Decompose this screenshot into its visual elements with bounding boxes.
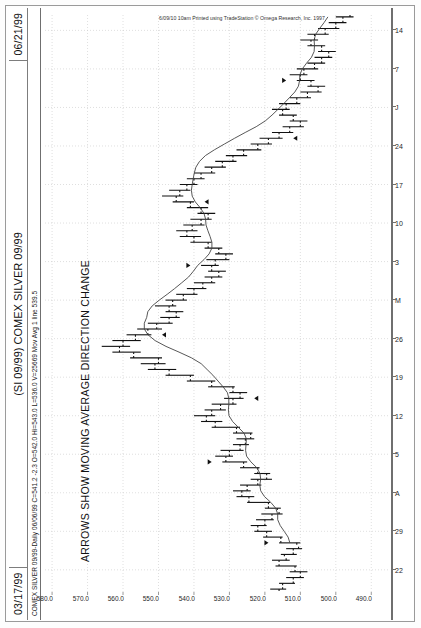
chart-page: 03/17/99 (SI 09/99) COMEX SILVER 09/99 0… [0,0,421,628]
page-title: (SI 09/99) COMEX SILVER 09/99 [12,61,24,566]
price-tick-label: 550.0 [143,595,159,602]
date-tick-mark [392,106,396,107]
price-tick-label: 540.0 [178,595,194,602]
date-tick-mark [392,530,396,531]
price-tick-label: 530.0 [214,595,230,602]
price-tick-label: 570.0 [72,595,88,602]
price-tick-label: 510.0 [285,595,301,602]
date-tick-mark [392,376,396,377]
price-tick-label: 500.0 [320,595,336,602]
date-tick-mark [392,29,396,30]
date-tick-mark [392,569,396,570]
quote-line: COMEX SILVER 09/99-Daily 06/06/99 C=541.… [28,8,40,620]
date-tick-mark [392,415,396,416]
date-tick-mark [392,261,396,262]
plot-area[interactable] [40,8,392,620]
date-tick-mark [392,299,396,300]
date-tick-mark [392,184,396,185]
date-tick-mark [392,68,396,69]
date-tick-mark [392,338,396,339]
price-tick-label: 490.0 [355,595,371,602]
price-tick-label: 560.0 [107,595,123,602]
copyright-notice: 6/09/10 10am Printed using TradeStation … [159,15,325,21]
quote-text: COMEX SILVER 09/99-Daily 06/06/99 C=541.… [30,291,37,620]
date-tick-mark [392,492,396,493]
price-tick-label: 580.0 [36,595,52,602]
ohlc-svg [41,8,392,620]
title-band: 03/17/99 (SI 09/99) COMEX SILVER 09/99 0… [9,8,28,620]
rotated-chart-canvas: 03/17/99 (SI 09/99) COMEX SILVER 09/99 0… [9,8,413,620]
date-tick-mark [392,222,396,223]
date-tick-mark [392,453,396,454]
price-tick-label: 520.0 [249,595,265,602]
date-tick-mark [392,145,396,146]
start-date-label: 03/17/99 [8,567,27,620]
end-date-label: 06/21/99 [8,8,27,61]
chart-annotation: ARROWS SHOW MOVING AVERAGE DIRECTION CHA… [79,260,91,562]
